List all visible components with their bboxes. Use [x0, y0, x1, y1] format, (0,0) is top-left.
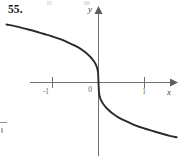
function-curve [7, 25, 177, 138]
figure-panel: 55. y x -1 1 0 [0, 0, 181, 158]
y-axis-label: y [87, 4, 92, 14]
x-axis-arrowhead [170, 79, 178, 87]
y-axis-arrowhead [95, 6, 103, 14]
tick-label-pos-one: 1 [142, 87, 146, 96]
graph-canvas: y x -1 1 0 [0, 0, 181, 158]
origin-label: 0 [88, 85, 92, 94]
x-axis-label: x [166, 87, 171, 97]
tick-label-neg-one: -1 [43, 87, 49, 96]
